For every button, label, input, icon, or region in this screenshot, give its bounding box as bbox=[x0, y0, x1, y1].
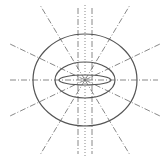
ray-upper-left-shallow-line bbox=[10, 44, 85, 80]
ray-lower-left-shallow-line bbox=[10, 80, 85, 116]
ray-lower-right-shallow-line bbox=[85, 80, 160, 116]
diagram-canvas bbox=[0, 0, 166, 161]
ray-upper-right-shallow-line bbox=[85, 44, 160, 80]
confocal-ellipses-diagram bbox=[0, 0, 166, 161]
